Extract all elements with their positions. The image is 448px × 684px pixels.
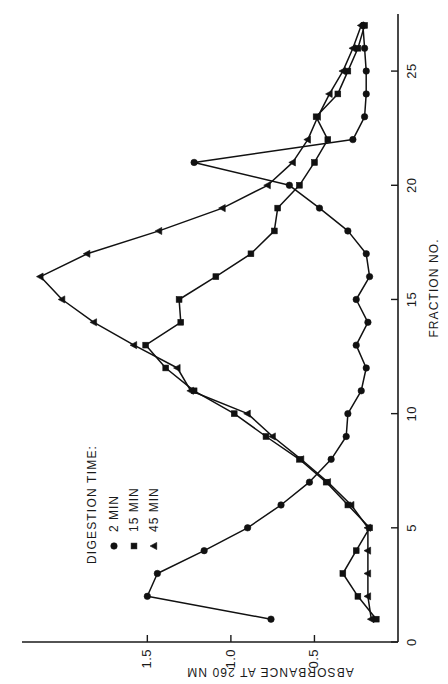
data-point-marker bbox=[366, 273, 372, 279]
data-point-marker bbox=[264, 182, 271, 189]
legend-item-label: 15 MIN bbox=[127, 487, 141, 532]
y-axis-tick-label: 1.5 bbox=[139, 649, 154, 669]
data-point-marker bbox=[174, 364, 181, 371]
data-point-marker bbox=[275, 205, 281, 211]
x-axis-tick-label: 5 bbox=[404, 524, 419, 532]
legend-title: DIGESTION TIME: bbox=[85, 445, 99, 564]
figure-page: 05101520250.51.01.5FRACTION NO.ABSORBANC… bbox=[0, 0, 448, 684]
data-point-marker bbox=[263, 434, 269, 440]
data-point-marker bbox=[353, 296, 359, 302]
x-axis-title: FRACTION NO. bbox=[427, 238, 441, 337]
legend-item-15-min[interactable]: 15 MIN bbox=[127, 487, 141, 549]
data-point-marker bbox=[340, 571, 346, 577]
data-point-marker bbox=[353, 342, 359, 348]
data-point-marker bbox=[83, 250, 90, 257]
data-point-marker bbox=[306, 479, 312, 485]
data-point-marker bbox=[355, 593, 361, 599]
data-point-marker bbox=[178, 319, 184, 325]
triangle-marker-icon bbox=[150, 542, 157, 549]
data-point-marker bbox=[312, 160, 318, 166]
data-point-marker bbox=[219, 205, 226, 212]
data-point-marker bbox=[335, 91, 341, 97]
data-point-marker bbox=[316, 205, 322, 211]
data-point-marker bbox=[328, 456, 334, 462]
x-axis-tick-label: 20 bbox=[404, 178, 419, 193]
x-axis-tick-label: 25 bbox=[404, 63, 419, 78]
data-point-marker bbox=[286, 182, 292, 188]
data-point-marker bbox=[154, 570, 160, 576]
data-point-marker bbox=[325, 137, 331, 143]
data-point-marker bbox=[244, 525, 250, 531]
data-point-marker bbox=[201, 547, 207, 553]
chart-plot-area: 05101520250.51.01.5FRACTION NO.ABSORBANC… bbox=[0, 0, 448, 684]
data-point-marker bbox=[231, 411, 237, 417]
series-15-min bbox=[143, 23, 379, 623]
data-point-marker bbox=[304, 136, 311, 143]
rotated-figure-container: 05101520250.51.01.5FRACTION NO.ABSORBANC… bbox=[0, 0, 448, 684]
legend-item-label: 2 MIN bbox=[107, 495, 121, 532]
data-point-marker bbox=[176, 297, 182, 303]
chart-svg: 05101520250.51.01.5FRACTION NO.ABSORBANC… bbox=[0, 0, 448, 684]
data-point-marker bbox=[350, 136, 356, 142]
legend-item-2-min[interactable]: 2 MIN bbox=[107, 495, 121, 549]
data-point-marker bbox=[278, 502, 284, 508]
data-point-marker bbox=[191, 159, 197, 165]
y-axis-title: ABSORBANCE AT 260 NM bbox=[186, 665, 354, 679]
data-point-marker bbox=[363, 91, 369, 97]
data-point-marker bbox=[268, 616, 274, 622]
data-point-marker bbox=[345, 228, 351, 234]
data-point-marker bbox=[163, 365, 169, 371]
data-point-marker bbox=[361, 45, 367, 51]
legend-group: DIGESTION TIME:2 MIN15 MIN45 MIN bbox=[85, 445, 161, 564]
data-point-marker bbox=[213, 274, 219, 280]
data-point-marker bbox=[244, 410, 251, 417]
x-axis-tick-label: 0 bbox=[404, 638, 419, 646]
legend-item-label: 45 MIN bbox=[147, 487, 161, 532]
circle-marker-icon bbox=[111, 543, 117, 549]
legend-item-45-min[interactable]: 45 MIN bbox=[147, 487, 161, 549]
data-point-marker bbox=[297, 182, 303, 188]
data-point-marker bbox=[358, 388, 364, 394]
data-point-marker bbox=[155, 227, 162, 234]
data-point-marker bbox=[144, 593, 150, 599]
square-marker-icon bbox=[131, 543, 137, 549]
x-axis-tick-label: 15 bbox=[404, 292, 419, 307]
x-axis-tick-label: 10 bbox=[404, 406, 419, 421]
data-point-marker bbox=[353, 548, 359, 554]
data-point-marker bbox=[271, 228, 277, 234]
data-point-marker bbox=[343, 433, 349, 439]
data-point-marker bbox=[248, 251, 254, 257]
data-point-marker bbox=[143, 342, 149, 348]
data-point-marker bbox=[361, 114, 367, 120]
axes-group: 05101520250.51.01.5FRACTION NO.ABSORBANC… bbox=[22, 14, 441, 679]
data-point-marker bbox=[363, 68, 369, 74]
data-point-marker bbox=[36, 273, 43, 280]
data-point-marker bbox=[363, 251, 369, 257]
data-point-marker bbox=[365, 319, 371, 325]
data-point-marker bbox=[345, 410, 351, 416]
data-point-marker bbox=[363, 365, 369, 371]
